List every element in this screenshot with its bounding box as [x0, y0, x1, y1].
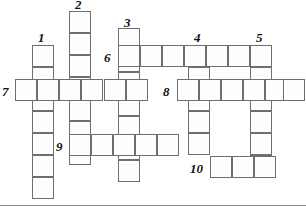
- cell-2d-5[interactable]: [69, 99, 91, 121]
- cell-8a-1[interactable]: [177, 79, 199, 101]
- cell-9a-5[interactable]: [157, 134, 179, 156]
- cell-7a-6[interactable]: [126, 79, 148, 101]
- cell-8a-2[interactable]: [199, 79, 221, 101]
- clue-number-5: 5: [256, 31, 263, 44]
- cell-8a-6[interactable]: [283, 79, 305, 101]
- cell-7a-4[interactable]: [81, 79, 103, 101]
- cell-8a-3[interactable]: [221, 79, 243, 101]
- clue-number-2: 2: [75, 0, 82, 11]
- cell-8a-4[interactable]: [243, 79, 265, 101]
- crossword-puzzle: 12345678910: [0, 0, 306, 213]
- cell-7a-1[interactable]: [15, 79, 37, 101]
- cell-4d-5[interactable]: [188, 133, 210, 155]
- cell-3d-7[interactable]: [118, 160, 140, 182]
- cell-9a-2[interactable]: [91, 134, 113, 156]
- cell-9a-1[interactable]: [69, 134, 91, 156]
- cell-7a-2[interactable]: [37, 79, 59, 101]
- cell-6a-5[interactable]: [206, 45, 228, 67]
- cell-1d-6[interactable]: [32, 155, 54, 177]
- cell-2d-2[interactable]: [69, 33, 91, 55]
- cell-9a-4[interactable]: [135, 134, 157, 156]
- cell-1d-1[interactable]: [32, 45, 54, 67]
- cell-5d-5[interactable]: [250, 133, 272, 155]
- cell-7a-5[interactable]: [104, 79, 126, 101]
- cell-10a-3[interactable]: [254, 156, 276, 178]
- cell-4d-4[interactable]: [188, 111, 210, 133]
- cell-10a-1[interactable]: [210, 156, 232, 178]
- clue-number-8: 8: [163, 85, 170, 98]
- cell-1d-4[interactable]: [32, 111, 54, 133]
- clue-number-4: 4: [194, 31, 201, 44]
- cell-9a-3[interactable]: [113, 134, 135, 156]
- cell-6a-6[interactable]: [228, 45, 250, 67]
- cell-6a-7[interactable]: [250, 45, 272, 67]
- cell-6a-4[interactable]: [184, 45, 206, 67]
- cell-7a-3[interactable]: [59, 79, 81, 101]
- cell-1d-5[interactable]: [32, 133, 54, 155]
- cell-6a-1[interactable]: [118, 45, 140, 67]
- clue-number-7: 7: [2, 85, 9, 98]
- cell-5d-4[interactable]: [250, 111, 272, 133]
- clue-number-6: 6: [104, 51, 111, 64]
- clue-number-9: 9: [56, 140, 63, 153]
- cell-10a-2[interactable]: [232, 156, 254, 178]
- cell-2d-3[interactable]: [69, 55, 91, 77]
- clue-number-3: 3: [124, 16, 131, 29]
- clue-number-1: 1: [38, 31, 45, 44]
- cell-6a-3[interactable]: [162, 45, 184, 67]
- clue-number-10: 10: [190, 162, 203, 175]
- cell-1d-7[interactable]: [32, 177, 54, 199]
- cell-6a-2[interactable]: [140, 45, 162, 67]
- cell-2d-1[interactable]: [69, 11, 91, 33]
- footer-divider: [0, 205, 306, 206]
